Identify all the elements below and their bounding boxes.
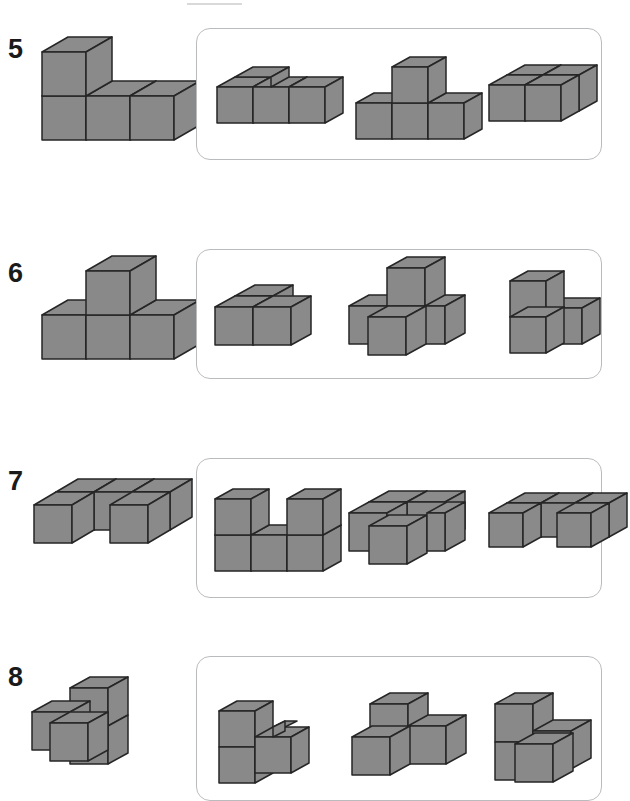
cube (352, 726, 410, 775)
option-7-c[interactable] (485, 487, 630, 587)
option-5-b[interactable] (352, 41, 502, 156)
cube (428, 93, 482, 139)
cube (50, 712, 108, 761)
options-box-8 (196, 656, 602, 801)
options-box-6 (196, 249, 602, 379)
cube (489, 503, 541, 547)
row-number-6: 6 (8, 260, 23, 287)
row-number-7: 7 (8, 468, 23, 495)
cube (369, 515, 427, 564)
cube (255, 727, 309, 773)
option-8-b[interactable] (352, 682, 477, 797)
option-6-a[interactable] (215, 272, 335, 372)
option-8-c[interactable] (489, 682, 609, 797)
option-6-b[interactable] (349, 258, 489, 376)
cut-off-element-artifact (187, 3, 242, 5)
options-box-7 (196, 458, 602, 598)
option-8-a[interactable] (219, 689, 339, 799)
exercise-row-7: 7 (0, 450, 609, 615)
cube (42, 37, 112, 96)
cube (427, 502, 465, 551)
cube (215, 489, 269, 535)
prompt-figure-6 (28, 253, 178, 368)
option-5-a[interactable] (217, 51, 367, 151)
exercise-row-5: 5 (0, 20, 609, 200)
prompt-figure-8 (28, 660, 168, 785)
cube (130, 81, 200, 140)
cube (368, 306, 426, 355)
options-box-5 (196, 28, 602, 160)
option-6-c[interactable] (492, 258, 612, 376)
cube (392, 57, 446, 103)
row-number-8: 8 (8, 664, 23, 691)
exercise-row-6: 6 (0, 245, 609, 415)
row-number-5: 5 (8, 36, 23, 63)
cube (515, 733, 573, 782)
prompt-figure-7 (28, 470, 188, 580)
cube (289, 77, 343, 123)
cube (408, 715, 466, 764)
option-5-c[interactable] (489, 49, 619, 149)
cube (387, 257, 445, 306)
cube (287, 489, 341, 535)
option-7-a[interactable] (215, 479, 345, 594)
option-7-b[interactable] (349, 484, 474, 584)
cube (86, 256, 156, 315)
cube (510, 307, 564, 353)
exercise-row-8: 8 (0, 650, 609, 792)
cube (110, 492, 170, 543)
cube (253, 296, 311, 345)
prompt-figure-5 (28, 28, 178, 148)
cube (34, 492, 94, 543)
cube (525, 75, 579, 121)
cube (557, 503, 609, 547)
